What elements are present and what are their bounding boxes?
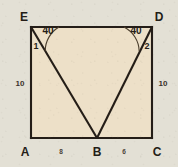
side-label-ab: 8 [59,148,63,155]
geometry-figure: E D A B C 40 40 1 2 10 10 8 6 [0,0,178,167]
angle-name-2: 2 [144,41,149,51]
angle-name-1: 1 [33,41,38,51]
angle-value-e: 40 [42,25,54,36]
side-label-cd: 10 [159,79,168,88]
vertex-label-a: A [21,145,30,159]
angle-value-d: 40 [130,25,142,36]
quadrilateral-interior-fill [31,27,152,138]
vertex-label-b: B [93,145,102,159]
side-label-ae: 10 [16,79,25,88]
vertex-label-d: D [155,10,164,24]
vertex-label-e: E [20,10,28,24]
figure-canvas: E D A B C 40 40 1 2 10 10 8 6 [0,0,178,167]
vertex-label-c: C [153,145,162,159]
side-label-bc: 6 [122,148,126,155]
